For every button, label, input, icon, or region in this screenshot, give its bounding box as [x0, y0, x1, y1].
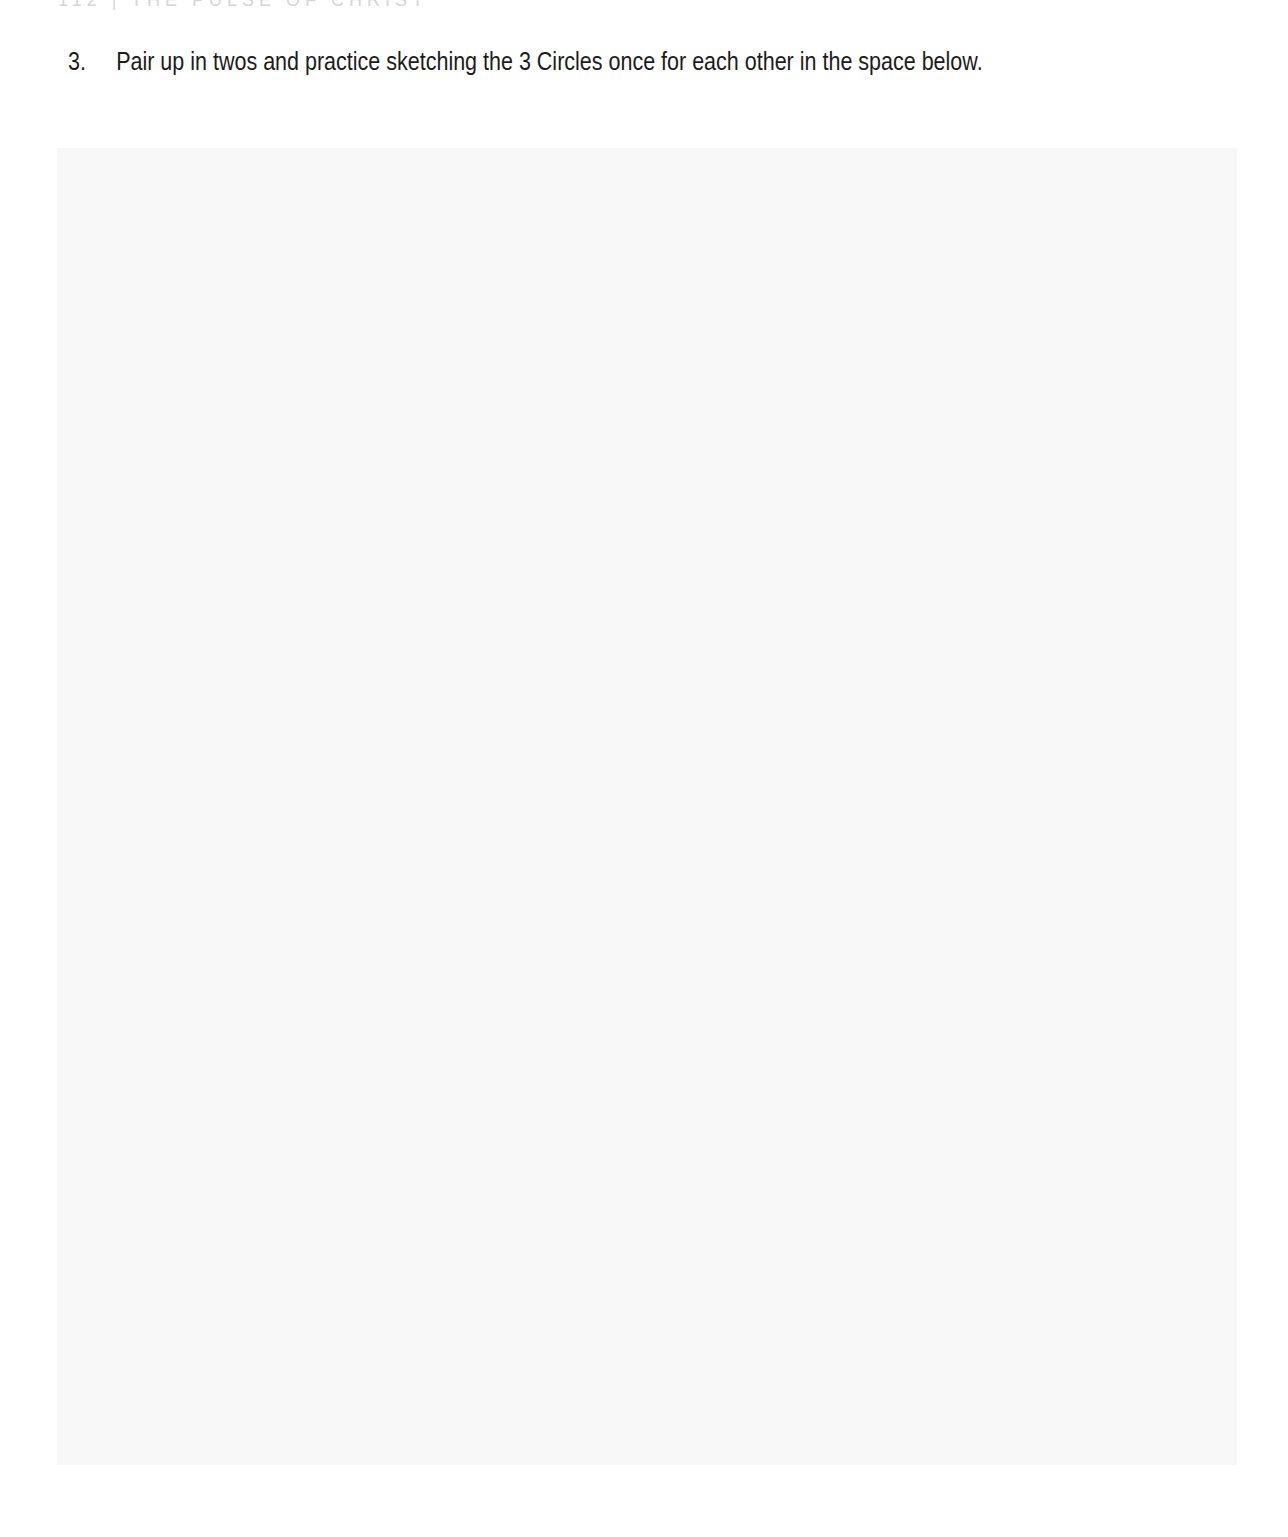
- running-header: 112 | THE PULSE OF CHRIST: [58, 0, 428, 11]
- sketch-area[interactable]: [57, 148, 1237, 1465]
- question-item: 3. Pair up in twos and practice sketchin…: [68, 44, 983, 78]
- question-number: 3.: [68, 44, 116, 78]
- question-text: Pair up in twos and practice sketching t…: [116, 44, 982, 78]
